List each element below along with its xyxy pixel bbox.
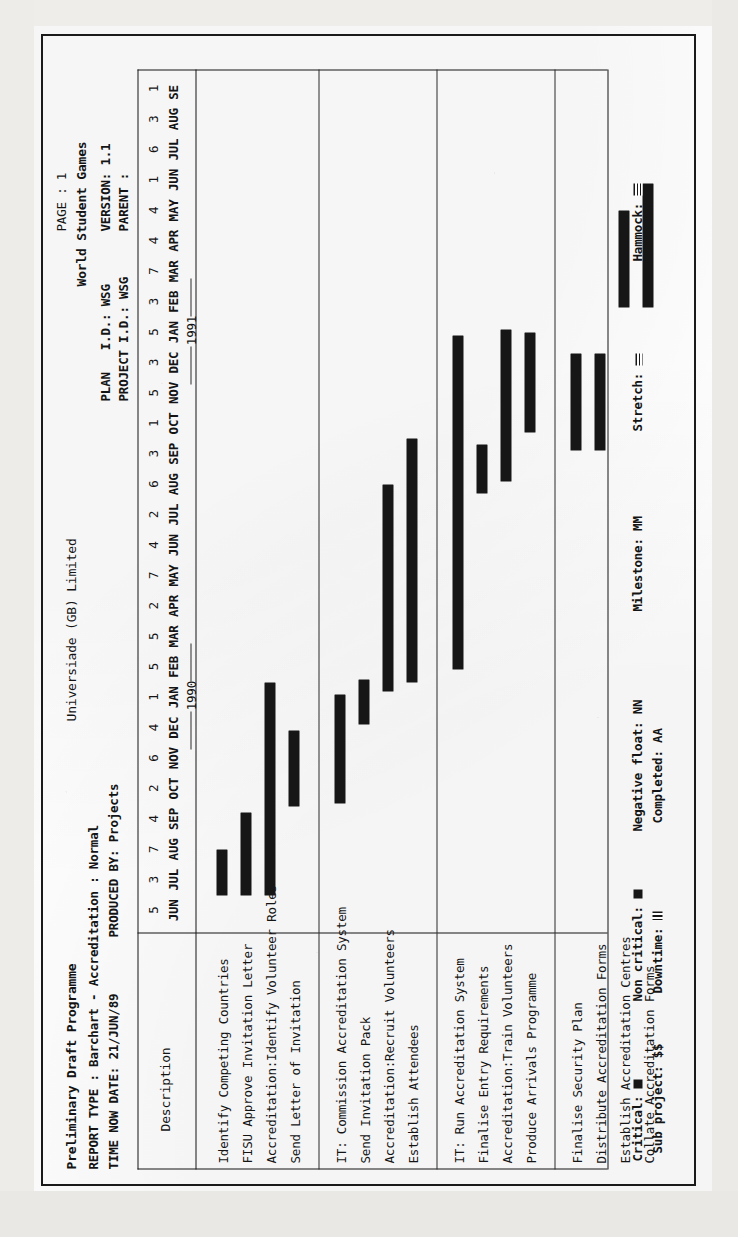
timescale-week-number: 4 — [145, 815, 160, 822]
produced-by-line: PRODUCED BY: Projects — [105, 783, 120, 937]
gantt-bar — [240, 812, 251, 894]
timescale-month-label: AUG — [165, 108, 180, 130]
gantt-bar — [500, 329, 511, 481]
group-separator-rule-labels — [554, 933, 555, 1169]
group-separator-rule-labels — [436, 933, 437, 1169]
legend-item-label: Sub project: — [649, 1065, 664, 1153]
task-label: Distribute Accreditation Forms — [593, 943, 608, 1163]
gantt-bar — [382, 484, 393, 691]
timescale-month-label: MAY — [165, 564, 180, 586]
task-label: Accreditation:Identify Volunteer Roles — [263, 885, 278, 1163]
scan-edge-right — [712, 0, 738, 1237]
timescale-week-number: 7 — [145, 267, 160, 274]
timescale-month-label: JUL — [165, 503, 180, 525]
timescale-week-number: 7 — [145, 571, 160, 578]
timescale-week-number: 1 — [145, 84, 160, 91]
timescale-month-label: OCT — [165, 777, 180, 799]
year-marker-rule — [190, 278, 191, 316]
timescale-week-number: 6 — [145, 754, 160, 761]
gantt-bar — [406, 438, 417, 681]
timescale-month-label: MAR — [165, 625, 180, 647]
timescale-week-number: 5 — [145, 328, 160, 335]
year-marker-rule — [190, 643, 191, 681]
task-label: Send Invitation Pack — [357, 1016, 372, 1163]
gantt-bar — [524, 332, 535, 432]
timescale-month-label: FEB — [165, 290, 180, 312]
group-separator-rule-labels — [318, 933, 319, 1169]
timescale-week-number: 5 — [145, 663, 160, 670]
legend-downtime-swatch-icon — [652, 911, 662, 920]
timescale-month-label: AUG — [165, 838, 180, 860]
gantt-bar — [358, 679, 369, 725]
timescale-week-number: 2 — [145, 784, 160, 791]
page-title: Preliminary Draft Programme — [63, 963, 78, 1169]
legend-item: Non critical: — [629, 889, 644, 1001]
scanned-page: Preliminary Draft Programme REPORT TYPE … — [0, 0, 738, 1237]
legend-item: Completed: AA — [649, 728, 664, 823]
timescale-month-label: DEC — [165, 351, 180, 373]
gantt-bar — [264, 682, 275, 895]
timescale-month-label: SEP — [165, 442, 180, 464]
legend-item: Sub project: $$ — [649, 1043, 664, 1153]
legend-item-label: Negative float: — [629, 721, 644, 831]
task-label: Finalise Security Plan — [569, 1002, 584, 1163]
legend-item-label: Completed: — [649, 750, 664, 823]
company-name: Universiade (GB) Limited — [63, 538, 78, 721]
legend-item-label: Non critical: — [629, 906, 644, 1001]
timescale-month-label: JUL — [165, 138, 180, 160]
scan-edge-top — [0, 0, 738, 26]
timescale-week-number: 1 — [145, 419, 160, 426]
legend-item: Milestone: MM — [629, 516, 644, 611]
project-id: PROJECT I.D.: WSG — [115, 276, 130, 401]
timescale-month-label: MAY — [165, 199, 180, 221]
task-label: Finalise Entry Requirements — [475, 965, 490, 1163]
scan-edge-left — [0, 0, 34, 1237]
task-label: Establish Attendees — [405, 1024, 420, 1163]
timescale-month-label: SE — [165, 85, 180, 100]
group-separator-rule — [554, 69, 555, 933]
legend-item: Critical: — [629, 1079, 644, 1161]
gantt-bar — [216, 849, 227, 895]
task-label: FISU Approve Invitation Letter — [239, 943, 254, 1163]
scan-edge-bottom — [0, 1191, 738, 1237]
timescale-month-label: APR — [165, 595, 180, 617]
timescale-week-number: 4 — [145, 723, 160, 730]
page-label: PAGE : 1 — [53, 172, 68, 231]
timescale-week-number: 5 — [145, 632, 160, 639]
task-label: Accreditation:Train Volunteers — [499, 943, 514, 1163]
task-label: Accreditation:Recruit Volunteers — [381, 929, 396, 1163]
timescale-week-number: 3 — [145, 297, 160, 304]
timescale-week-number: 3 — [145, 358, 160, 365]
timescale-week-number: 4 — [145, 541, 160, 548]
gantt-bar — [618, 210, 629, 307]
chart-header-rule — [195, 69, 196, 1169]
timescale-week-number: 2 — [145, 510, 160, 517]
chart-right-rule — [137, 69, 607, 70]
timescale-week-number: 2 — [145, 602, 160, 609]
gantt-report-landscape: Preliminary Draft Programme REPORT TYPE … — [45, 46, 693, 1191]
timescale-month-label: MAR — [165, 260, 180, 282]
timescale-month-label: SEP — [165, 808, 180, 830]
legend-item-label: Hammock: — [629, 202, 644, 261]
gantt-bar — [288, 730, 299, 806]
timescale-month-label: APR — [165, 229, 180, 251]
legend-item-label: Milestone: — [629, 538, 644, 611]
legend-code-swatch: NN — [629, 699, 644, 714]
timescale-month-label: DEC — [165, 716, 180, 738]
plan-id: PLAN I.D.: WSG — [97, 284, 112, 401]
task-label: IT: Commission Accreditation System — [333, 907, 348, 1163]
legend-item: Downtime: — [649, 911, 664, 993]
timescale-month-label: JAN — [165, 321, 180, 343]
timescale-month-label: OCT — [165, 412, 180, 434]
timescale-week-number: 6 — [145, 145, 160, 152]
timescale-month-label: JAN — [165, 686, 180, 708]
chart-left-rule — [137, 1168, 607, 1169]
version-label: VERSION: 1.1 — [97, 143, 112, 231]
parent-label: PARENT : — [115, 172, 130, 231]
group-separator-rule — [436, 69, 437, 933]
legend-item-label: Critical: — [629, 1095, 644, 1161]
timescale-week-number: 4 — [145, 206, 160, 213]
column-header-description: Description — [157, 1047, 172, 1131]
gantt-bar — [452, 335, 463, 670]
legend-code-swatch: $$ — [649, 1043, 664, 1058]
